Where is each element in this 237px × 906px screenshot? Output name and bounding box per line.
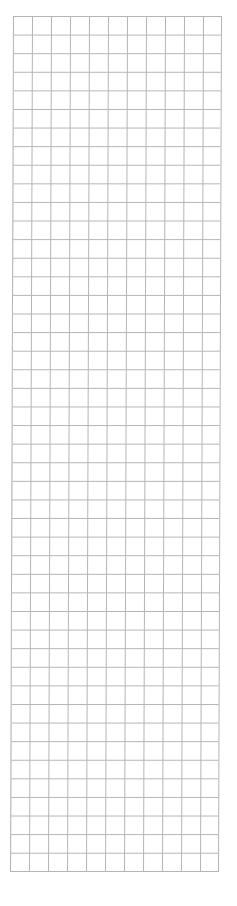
grid-paper	[10, 16, 222, 872]
